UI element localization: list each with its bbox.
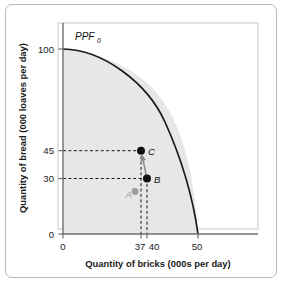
data-point-C <box>137 147 145 155</box>
y-tick-label-30: 30 <box>43 173 54 184</box>
data-point-label-B: B <box>154 174 161 185</box>
x-tick-label-37: 37 <box>135 241 146 252</box>
y-axis-title: Quantity of bread (000 loaves per day) <box>17 43 28 213</box>
data-point-A <box>132 188 139 195</box>
x-tick-label-0: 0 <box>60 241 65 252</box>
data-point-label-C: C <box>148 146 155 157</box>
ppf-chart: 100 45 30 0 0 37 40 50 A B C PPF 0 Quant… <box>6 5 278 279</box>
data-point-B <box>143 175 151 183</box>
x-axis-title: Quantity of bricks (000s per day) <box>85 258 230 269</box>
ppf-curve-label: PPF <box>75 31 95 42</box>
ppf-curve-label-subscript: 0 <box>97 37 101 44</box>
data-point-label-A: A <box>125 189 132 200</box>
figure-card: 100 45 30 0 0 37 40 50 A B C PPF 0 Quant… <box>5 4 277 278</box>
y-tick-label-45: 45 <box>43 145 54 156</box>
y-tick-label-0: 0 <box>49 229 54 240</box>
x-tick-label-40: 40 <box>149 241 160 252</box>
y-tick-label-100: 100 <box>38 44 54 55</box>
x-tick-label-50: 50 <box>192 241 203 252</box>
